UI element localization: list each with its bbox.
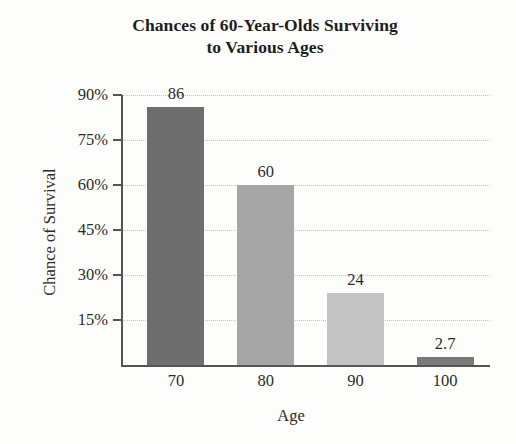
x-axis-tick-label: 100: [433, 371, 458, 391]
bar-value-label: 86: [168, 84, 185, 104]
bar: 24: [327, 293, 384, 365]
y-axis-tick: [113, 139, 122, 141]
y-axis-tick-label: 75%: [78, 130, 108, 150]
chart-title: Chances of 60-Year-Olds Surviving to Var…: [70, 14, 460, 58]
y-axis-tick-label: 60%: [78, 175, 108, 195]
y-axis-tick-label: 45%: [78, 220, 108, 240]
y-axis-line: [121, 95, 123, 367]
y-axis-tick: [113, 94, 122, 96]
bar-value-label: 24: [347, 270, 364, 290]
bar-chart: Chances of 60-Year-Olds Surviving to Var…: [0, 0, 516, 444]
x-axis-tick-label: 90: [347, 371, 364, 391]
chart-title-line-2: to Various Ages: [70, 36, 460, 58]
bar-value-label: 2.7: [435, 334, 456, 354]
y-axis-tick: [113, 229, 122, 231]
x-axis-tick-label: 70: [168, 371, 185, 391]
bar: 60: [237, 185, 294, 365]
x-axis-line: [121, 365, 490, 367]
y-axis-tick: [113, 184, 122, 186]
y-axis-tick: [113, 319, 122, 321]
plot-area: 15%30%45%60%75%90% 8660242.7 708090100: [121, 95, 490, 367]
bar: 2.7: [417, 357, 474, 365]
chart-title-line-1: Chances of 60-Year-Olds Surviving: [70, 14, 460, 36]
bar: 86: [147, 107, 204, 365]
bar-value-label: 60: [257, 162, 274, 182]
y-axis-tick-label: 30%: [78, 265, 108, 285]
y-axis-tick: [113, 274, 122, 276]
x-axis-title: Age: [121, 406, 461, 426]
x-axis-tick-label: 80: [257, 371, 274, 391]
y-axis-title: Chance of Survival: [40, 107, 60, 357]
y-axis-tick-label: 15%: [78, 310, 108, 330]
y-axis-tick-label: 90%: [78, 85, 108, 105]
